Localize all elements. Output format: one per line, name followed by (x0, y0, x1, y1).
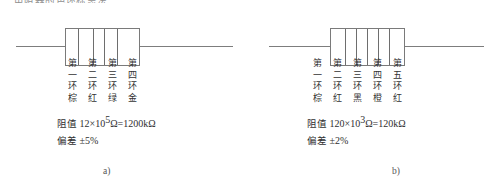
ordinal-number-4-a: 四 (122, 70, 142, 82)
color-4-a: 金 (122, 93, 142, 105)
ordinal-number-2-b: 二 (327, 70, 347, 82)
ordinal-prefix-4-b: 第 (367, 58, 387, 70)
ordinal-prefix-5-b: 第 (387, 58, 407, 70)
resistance-unit-a: Ω (110, 118, 117, 129)
lead-wire-right-a (140, 46, 233, 47)
ordinal-prefix-row-a: 第 第 第 第 (62, 58, 142, 70)
tolerance-value-a: ±5% (80, 135, 99, 146)
lead-wire-left-a (16, 46, 65, 47)
ordinal-number-3-a: 三 (102, 70, 122, 82)
band-label-grid-a: 第 第 第 第 一 二 三 四 环 环 环 环 棕 红 绿 金 (62, 58, 142, 104)
ordinal-prefix-2-a: 第 (82, 58, 102, 70)
ordinal-number-row-a: 一 二 三 四 (62, 70, 142, 82)
color-1-a: 棕 (62, 93, 82, 105)
resistor-schematic-b (251, 14, 502, 56)
ordinal-number-5-b: 五 (387, 70, 407, 82)
ordinal-number-2-a: 二 (82, 70, 102, 82)
ring-5-b: 环 (387, 81, 407, 93)
figure-a: 第 第 第 第 一 二 三 四 环 环 环 环 棕 红 绿 金 阻值 12×10… (0, 0, 251, 186)
ordinal-prefix-1-a: 第 (62, 58, 82, 70)
color-4-b: 橙 (367, 93, 387, 105)
caption-b: b) (392, 166, 400, 176)
color-row-b: 棕 红 黑 橙 红 (307, 93, 407, 105)
ring-row-b: 环 环 环 环 环 (307, 81, 407, 93)
ring-1-a: 环 (62, 81, 82, 93)
resistance-label-b: 阻值 (307, 118, 327, 129)
lead-wire-right-b (405, 46, 484, 47)
ring-2-a: 环 (82, 81, 102, 93)
tolerance-label-a: 偏差 (57, 135, 77, 146)
ordinal-prefix-1-b: 第 (307, 58, 327, 70)
resistance-spec-b: 阻值 120×103Ω=120kΩ (307, 117, 406, 131)
color-3-b: 黑 (347, 93, 367, 105)
ordinal-number-row-b: 一 二 三 四 五 (307, 70, 407, 82)
band-label-grid-b: 第 第 第 第 第 一 二 三 四 五 环 环 环 环 环 棕 红 黑 橙 红 (307, 58, 407, 104)
ordinal-number-3-b: 三 (347, 70, 367, 82)
color-1-b: 棕 (307, 93, 327, 105)
resistance-unit-b: Ω (365, 118, 372, 129)
ring-1-b: 环 (307, 81, 327, 93)
tolerance-spec-a: 偏差 ±5% (57, 134, 98, 148)
ordinal-prefix-2-b: 第 (327, 58, 347, 70)
resistor-schematic-a (0, 14, 251, 56)
lead-wire-left-b (269, 46, 330, 47)
ring-row-a: 环 环 环 环 (62, 81, 142, 93)
ring-4-a: 环 (122, 81, 142, 93)
ordinal-prefix-3-a: 第 (102, 58, 122, 70)
resistance-result-b: 120kΩ (378, 118, 405, 129)
ring-3-a: 环 (102, 81, 122, 93)
ring-2-b: 环 (327, 81, 347, 93)
ring-3-b: 环 (347, 81, 367, 93)
ordinal-prefix-4-a: 第 (122, 58, 142, 70)
color-3-a: 绿 (102, 93, 122, 105)
ordinal-prefix-row-b: 第 第 第 第 第 (307, 58, 407, 70)
ordinal-number-4-b: 四 (367, 70, 387, 82)
figure-b: 第 第 第 第 第 一 二 三 四 五 环 环 环 环 环 棕 红 黑 橙 红 (251, 0, 502, 186)
ring-4-b: 环 (367, 81, 387, 93)
resistance-spec-a: 阻值 12×105Ω=1200kΩ (57, 117, 156, 131)
tolerance-value-b: ±2% (330, 135, 349, 146)
color-2-a: 红 (82, 93, 102, 105)
ordinal-number-1-a: 一 (62, 70, 82, 82)
resistance-base-b: 10 (350, 118, 360, 129)
ordinal-number-1-b: 一 (307, 70, 327, 82)
caption-a: a) (103, 166, 110, 176)
ordinal-prefix-3-b: 第 (347, 58, 367, 70)
color-5-b: 红 (387, 93, 407, 105)
resistance-base-a: 10 (95, 118, 105, 129)
tolerance-label-b: 偏差 (307, 135, 327, 146)
resistance-mantissa-a: 12 (80, 118, 90, 129)
resistance-mantissa-b: 120 (330, 118, 345, 129)
resistance-result-a: 1200kΩ (123, 118, 155, 129)
tolerance-spec-b: 偏差 ±2% (307, 134, 348, 148)
resistance-label-a: 阻值 (57, 118, 77, 129)
color-row-a: 棕 红 绿 金 (62, 93, 142, 105)
color-2-b: 红 (327, 93, 347, 105)
